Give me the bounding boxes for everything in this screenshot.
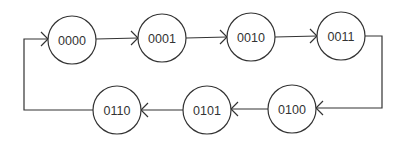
state-label: 0100	[278, 103, 306, 117]
state-0010: 0010	[227, 13, 275, 61]
edge-0000-0001	[96, 38, 138, 39]
state-0110: 0110	[93, 86, 141, 134]
state-label: 0101	[193, 104, 221, 118]
edge-0001-0010	[186, 37, 227, 38]
state-diagram: 0000 0001 0010 0011 0100 0101 0110	[0, 0, 398, 141]
state-0011: 0011	[317, 12, 365, 60]
state-label: 0011	[328, 30, 355, 44]
state-0100: 0100	[268, 85, 316, 133]
state-0000: 0000	[48, 16, 96, 64]
state-label: 0000	[58, 34, 86, 48]
edge-0010-0011	[275, 36, 317, 37]
state-0101: 0101	[183, 86, 231, 134]
state-label: 0001	[148, 32, 176, 46]
state-label: 0110	[104, 104, 131, 118]
state-0001: 0001	[138, 14, 186, 62]
state-label: 0010	[237, 31, 265, 45]
